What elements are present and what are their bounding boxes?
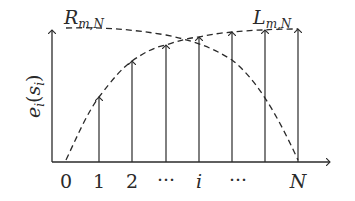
x-tick-ellipsis-2: ··· (229, 168, 247, 190)
value-arrows (99, 29, 298, 162)
x-tick-1: 1 (93, 170, 105, 192)
x-tick-N: N (289, 170, 308, 192)
axes (52, 30, 330, 162)
l-curve-label: Lm,N (252, 6, 292, 31)
r-curve-label: Rm,N (63, 6, 105, 31)
x-tick-2: 2 (126, 170, 138, 192)
x-tick-0: 0 (60, 170, 72, 192)
x-tick-labels: 0 1 2 ··· i ··· N (60, 168, 308, 192)
y-axis-label: ei(si) (22, 74, 47, 118)
r-curve-dashed (66, 29, 298, 160)
diagram-canvas: Rm,N Lm,N ei(si) 0 1 2 ··· i ··· N (0, 0, 355, 201)
x-tick-ellipsis-1: ··· (157, 168, 175, 190)
x-tick-i: i (196, 170, 202, 192)
